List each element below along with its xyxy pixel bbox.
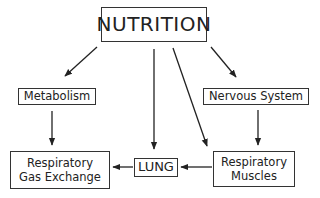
node-nutrition: NUTRITION	[101, 7, 207, 42]
node-respiratory-muscles: Respiratory Muscles	[213, 151, 295, 187]
node-respiratory-gas-exchange: Respiratory Gas Exchange	[10, 151, 110, 189]
node-nutrition-label: NUTRITION	[97, 12, 212, 37]
node-lung: LUNG	[134, 158, 178, 177]
node-muscles-line1: Respiratory	[221, 155, 287, 169]
edge-nutrition-to-metabolism	[65, 47, 97, 76]
node-gas-exchange-line1: Respiratory	[27, 156, 93, 170]
node-metabolism-label: Metabolism	[24, 89, 90, 103]
node-metabolism: Metabolism	[18, 88, 96, 105]
node-nervous-system: Nervous System	[203, 88, 309, 105]
node-nervous-system-label: Nervous System	[209, 89, 303, 103]
node-gas-exchange-line2: Gas Exchange	[19, 170, 101, 184]
node-lung-label: LUNG	[138, 159, 174, 175]
node-muscles-line2: Muscles	[231, 169, 277, 183]
edge-nutrition-to-muscles	[173, 48, 207, 146]
edge-nutrition-to-nervous-system	[211, 47, 236, 77]
